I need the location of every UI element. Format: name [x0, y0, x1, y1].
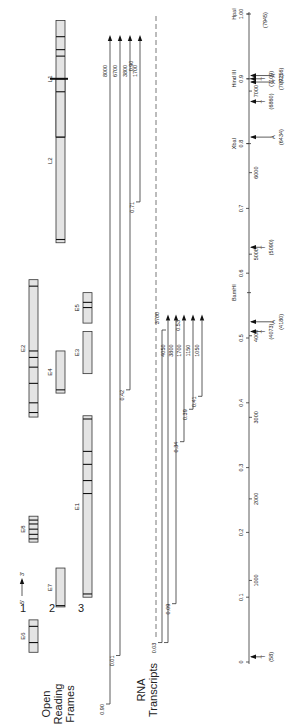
arrowhead-icon [20, 578, 24, 584]
site-coord-label: (5090) [268, 239, 274, 255]
map-unit-label: 0.9 [238, 75, 244, 83]
orf-label: L2 [47, 157, 53, 164]
map-unit-label: 0.7 [238, 205, 244, 213]
transcript-upper: 0.908000 [99, 35, 112, 715]
site-base-label: A [270, 320, 276, 324]
transcript-start-label: 0.39 [182, 409, 188, 420]
site-base-label: T [260, 245, 266, 249]
orf-label: E5 [74, 304, 80, 312]
transcript-start-label: 0.42 [119, 390, 125, 401]
enzyme-site-label: HpaI [231, 8, 237, 20]
transcript-start-label: 0.01 [109, 656, 115, 667]
open-reading-frames: E6E7E8E1E2E4E3E5L2L11235'3' [19, 20, 92, 652]
transcript-length-label: 6700 [112, 65, 118, 77]
polyadenylation-site: A(6434) [250, 129, 284, 145]
site-coord-label: (7109) [268, 71, 274, 87]
orf-label: E6 [20, 632, 26, 640]
orf-label: E1 [74, 502, 80, 510]
site-coord-label: (6860) [268, 93, 274, 109]
arrowhead-icon [250, 73, 256, 77]
orf-box [83, 416, 92, 597]
three-prime-label: 3' [19, 572, 25, 576]
five-prime-label: 5' [19, 600, 25, 604]
arrowhead-icon [138, 35, 142, 41]
orf-e8: E8 [20, 516, 38, 542]
orf-box [29, 620, 38, 652]
arrowhead-icon [174, 315, 178, 321]
site-base-label: A [270, 135, 276, 139]
enzyme-site-label: Hind III [231, 70, 237, 88]
arrowhead-icon [191, 315, 195, 321]
site-base-label: T [260, 76, 266, 80]
site-coord-label: (4180) [278, 314, 284, 330]
transcript-lower: 38000.09 [165, 315, 178, 615]
bp-label: 1000 [253, 574, 259, 586]
genome-map-svg: E6E7E8E1E2E4E3E5L2L11235'3' 0.9080000.01… [0, 0, 304, 728]
site-base-label: T [260, 99, 266, 103]
rna-section-label: Transcripts [147, 663, 159, 717]
arrowhead-icon [118, 35, 122, 41]
orf-label: E7 [47, 583, 53, 591]
site-coord-label: (7945) [262, 12, 268, 28]
genome-map-diagram: E6E7E8E1E2E4E3E5L2L11235'3' 0.9080000.01… [0, 0, 304, 728]
map-unit-label: 0.5 [238, 334, 244, 342]
orf-section-label: Open [40, 691, 52, 718]
strand-direction: 5'3' [19, 572, 25, 604]
map-unit-label: 0.1 [238, 593, 244, 601]
map-unit-label: 0.4 [238, 399, 244, 407]
orf-label: E3 [74, 348, 80, 356]
arrowhead-icon [250, 320, 256, 324]
polyadenylation-site: T(7109) [250, 71, 274, 87]
orf-box [83, 332, 92, 374]
site-base-label: T [260, 329, 266, 333]
orf-label: E8 [20, 525, 26, 533]
orf-section-label: Reading [52, 684, 64, 725]
arrowhead-icon [166, 315, 170, 321]
transcript-start-label: 0.34 [173, 442, 179, 453]
bp-label: 5000 [253, 248, 259, 260]
orf-label: E4 [47, 368, 53, 376]
map-unit-label: 0.2 [238, 529, 244, 537]
orf-box [56, 568, 65, 607]
transcript-length-label: 1700 [176, 344, 182, 356]
arrowhead-icon [128, 35, 132, 41]
transcript-length-label: 3700 [154, 312, 160, 324]
transcript-start-label: 0.09 [165, 604, 171, 615]
arrowhead-icon [250, 99, 256, 103]
transcript-lower: 37000.03 [151, 312, 166, 653]
rna-transcripts: 0.9080000.0167000.4238000.7117000.903700… [99, 16, 204, 715]
arrowhead-icon [250, 135, 256, 139]
map-unit-label: 1.00 [238, 9, 244, 20]
orf-e4: E4 [47, 351, 65, 393]
frame-number-2: 2 [49, 602, 55, 614]
orf-section-label: Frames [64, 685, 76, 723]
map-unit-label: 0.8 [238, 140, 244, 148]
transcript-start-label: 0.41 [191, 396, 197, 407]
map-scale: 00.10.20.30.40.50.60.70.80.91.0010002000… [231, 8, 284, 664]
rna-section-label: RNA [135, 678, 147, 702]
transcript-length-label: 3800 [168, 344, 174, 356]
transcript-start-label: 0.71 [129, 202, 135, 213]
orf-e3: E3 [74, 332, 92, 374]
orf-e2: E2 [20, 280, 38, 417]
transcript-lower: 17000.34 [173, 315, 186, 453]
orf-e6: E6 [20, 620, 38, 652]
polyadenylation-site: T(58) [250, 652, 274, 662]
orf-e5: E5 [74, 293, 92, 323]
orf-e1: E1 [74, 416, 92, 597]
map-unit-label: 0.6 [238, 269, 244, 277]
bp-label: 2000 [253, 493, 259, 505]
arrowhead-icon [200, 315, 204, 321]
map-unit-label: 0 [238, 660, 244, 663]
site-coord-label: (58) [268, 652, 274, 662]
transcript-length-label: 8000 [102, 65, 108, 77]
frame-number-3: 3 [78, 602, 84, 614]
site-coord-label: (6434) [278, 129, 284, 145]
bp-label: 6000 [253, 167, 259, 179]
arrowhead-icon [182, 315, 186, 321]
arrowhead-icon [108, 35, 112, 41]
orf-label: E2 [20, 344, 26, 352]
site-coord-label: (4073) [268, 323, 274, 339]
arrowhead-icon [250, 655, 256, 659]
orf-box [29, 280, 38, 417]
